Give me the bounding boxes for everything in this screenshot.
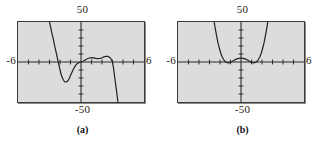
- panel-a-xmin-label: -6: [0, 54, 16, 66]
- panel-b-ymax-label: 50: [160, 3, 320, 15]
- panel-a-caption: (a): [0, 124, 160, 135]
- panel-a-graph-screen: [17, 21, 145, 103]
- panel-b-xmin-label: -6: [160, 54, 176, 66]
- panel-a-ymin-label: -50: [0, 103, 160, 115]
- panel-b-graph-screen: [177, 21, 305, 103]
- panel-b: 50 -6 6 -50: [160, 0, 320, 145]
- panel-b-axes: [178, 22, 304, 102]
- panel-a-ymax-label: 50: [0, 3, 160, 15]
- panel-b-caption: (b): [160, 124, 320, 135]
- panel-b-plot: [178, 22, 304, 102]
- figure-two-calculator-graphs: 50 -6 6 -50: [0, 0, 320, 145]
- panel-a-plot: [18, 22, 144, 102]
- panel-b-ymin-label: -50: [160, 103, 320, 115]
- panel-a: 50 -6 6 -50: [0, 0, 160, 145]
- panel-b-xmax-label: 6: [306, 54, 320, 66]
